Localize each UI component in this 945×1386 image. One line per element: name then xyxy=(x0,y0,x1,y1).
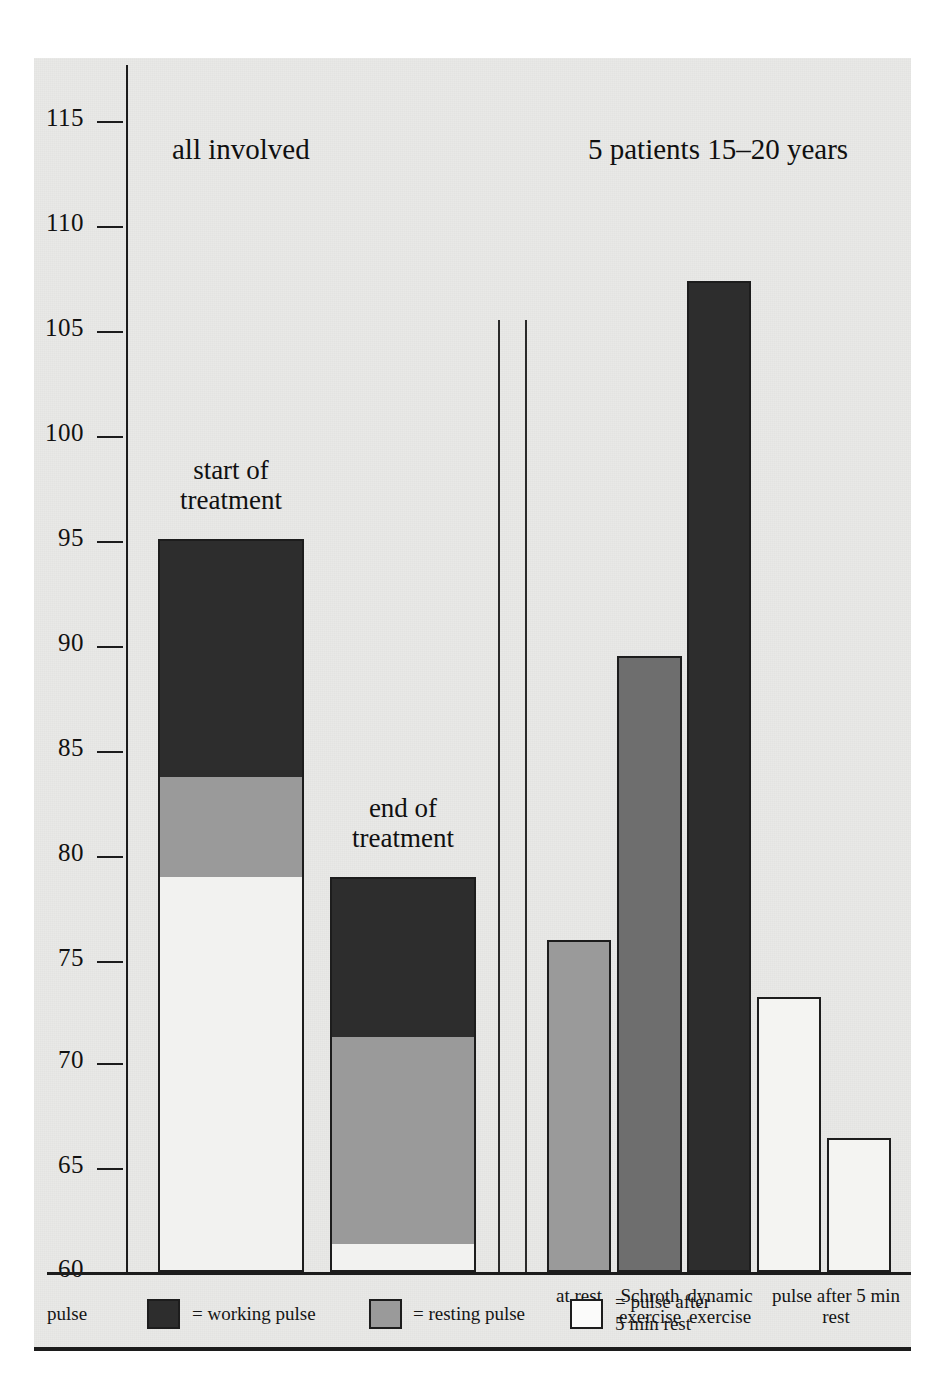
y-tick-100: 100 xyxy=(0,436,126,438)
legend-swatch-pulse-after-5-min-rest xyxy=(570,1299,603,1329)
y-tick-label-80: 80 xyxy=(24,839,84,867)
segment-pulse-after-5-min-rest xyxy=(160,877,302,1270)
legend-label-resting-pulse: = resting pulse xyxy=(413,1303,525,1325)
y-tick-label-115: 115 xyxy=(24,104,84,132)
y-axis-line xyxy=(126,65,128,1273)
y-tick-115: 115 xyxy=(0,121,126,123)
y-tick-65: 65 xyxy=(0,1168,126,1170)
chart-legend: pulse = working pulse = resting pulse = … xyxy=(47,1281,911,1343)
y-tick-label-100: 100 xyxy=(24,419,84,447)
y-tick-label-75: 75 xyxy=(24,944,84,972)
bar-label-end-of-treatment-line2: treatment xyxy=(352,823,454,853)
bar-at-rest[interactable] xyxy=(547,940,611,1272)
y-tick-label-65: 65 xyxy=(24,1151,84,1179)
y-tick-label-95: 95 xyxy=(24,524,84,552)
y-tick-75: 75 xyxy=(0,961,126,963)
panel-divider-line-left xyxy=(498,320,500,1272)
bar-label-start-of-treatment-line1: start of xyxy=(193,455,269,485)
y-tick-label-105: 105 xyxy=(24,314,84,342)
segment-working-pulse xyxy=(160,541,302,777)
panel-title-all-involved: all involved xyxy=(172,133,310,166)
y-tick-90: 90 xyxy=(0,646,126,648)
legend-swatch-resting-pulse xyxy=(369,1299,402,1329)
y-tick-105: 105 xyxy=(0,331,126,333)
legend-label-working-pulse: = working pulse xyxy=(192,1303,316,1325)
bar-start-of-treatment[interactable] xyxy=(158,539,304,1272)
y-tick-80: 80 xyxy=(0,856,126,858)
bar-label-start-of-treatment: start of treatment xyxy=(158,455,304,515)
y-tick-label-110: 110 xyxy=(24,209,84,237)
x-axis-baseline xyxy=(47,1272,911,1275)
y-tick-70: 70 xyxy=(0,1063,126,1065)
legend-swatch-working-pulse xyxy=(147,1299,180,1329)
legend-bottom-rule xyxy=(34,1347,911,1351)
segment-working-pulse xyxy=(332,879,474,1037)
segment-pulse-after-5-min-rest xyxy=(332,1244,474,1270)
bar-label-end-of-treatment: end of treatment xyxy=(330,793,476,853)
bar-schroth-exercise[interactable] xyxy=(617,656,682,1272)
y-tick-label-90: 90 xyxy=(24,629,84,657)
bar-label-end-of-treatment-line1: end of xyxy=(369,793,437,823)
bar-end-of-treatment[interactable] xyxy=(330,877,476,1272)
legend-label-rest5-line1: = pulse after xyxy=(615,1291,710,1312)
y-tick-label-60: 60 xyxy=(24,1255,84,1283)
y-tick-95: 95 xyxy=(0,541,126,543)
bar-pulse-after-5-min-rest-1[interactable] xyxy=(757,997,821,1272)
legend-axis-name: pulse xyxy=(47,1303,87,1325)
bar-pulse-after-5-min-rest-2[interactable] xyxy=(827,1138,891,1272)
segment-resting-pulse xyxy=(332,1037,474,1244)
bar-label-start-of-treatment-line2: treatment xyxy=(180,485,282,515)
legend-label-pulse-after-5-min-rest: = pulse after 5 min rest xyxy=(615,1291,710,1335)
y-tick-label-85: 85 xyxy=(24,734,84,762)
legend-label-rest5-line2: 5 min rest xyxy=(615,1313,691,1334)
y-tick-110: 110 xyxy=(0,226,126,228)
y-tick-85: 85 xyxy=(0,751,126,753)
chart-figure: 115 110 105 100 95 90 85 80 75 70 65 xyxy=(0,0,945,1386)
panel-title-5-patients: 5 patients 15–20 years xyxy=(588,133,848,166)
bar-dynamic-exercise[interactable] xyxy=(687,281,751,1272)
panel-divider-line-right xyxy=(525,320,527,1272)
segment-resting-pulse xyxy=(160,777,302,877)
y-tick-label-70: 70 xyxy=(24,1046,84,1074)
